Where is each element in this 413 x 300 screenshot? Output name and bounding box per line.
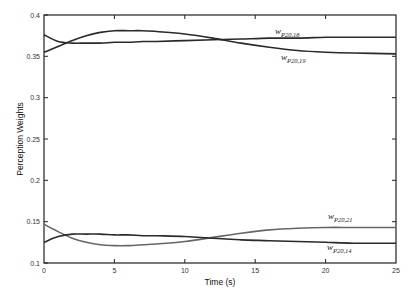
x-tick-label: 0 [42,267,46,274]
x-tick-label: 10 [181,267,189,274]
y-tick-label: 0.3 [30,94,40,101]
x-tick-label: 5 [112,267,116,274]
y-tick-label: 0.25 [26,136,40,143]
y-axis-label: Perception Weights [15,102,25,176]
y-tick-label: 0.15 [26,218,40,225]
y-tick-label: 0.35 [26,53,40,60]
y-tick-label: 0.1 [30,260,40,267]
y-tick-label: 0.2 [30,177,40,184]
y-tick-label: 0.4 [30,12,40,19]
chart: 0.1 0.15 0.2 0.25 0.3 0.35 0.4 0 5 10 15… [0,0,413,300]
x-tick-label: 20 [322,267,330,274]
x-tick-label: 25 [392,267,400,274]
x-axis-label: Time (s) [205,277,236,287]
x-tick-label: 15 [251,267,259,274]
